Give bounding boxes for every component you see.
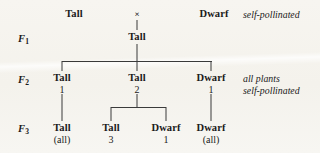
generation-label-f2: F2 <box>18 74 29 85</box>
f3-node-1-count: (all) <box>53 134 71 146</box>
bracket-f3-drop-right <box>166 107 167 121</box>
f2-note-line-1: all plants <box>243 73 280 84</box>
generation-label-f1-sub: 1 <box>25 37 29 46</box>
bracket-f2-drop-left <box>62 61 63 71</box>
f1-tall-label: Tall <box>128 31 146 43</box>
f2-node-3: Dwarf 1 <box>196 72 225 96</box>
f3-node-4-label: Dwarf <box>196 122 225 134</box>
connector-cross-to-f1 <box>137 20 138 30</box>
f1-node-tall: Tall <box>128 31 146 43</box>
f2-node-1: Tall 1 <box>53 72 71 96</box>
f3-node-1: Tall (all) <box>53 122 71 146</box>
f3-node-3-count: 1 <box>151 134 180 146</box>
parent-node-tall: Tall <box>65 8 83 20</box>
generation-label-f3: F3 <box>18 123 29 134</box>
f3-node-3-label: Dwarf <box>151 122 180 134</box>
bracket-f2-drop-center <box>137 61 138 71</box>
diagram-canvas: Tall × Dwarf self-pollinated F1 Tall F2 … <box>0 0 320 153</box>
f3-node-1-label: Tall <box>53 122 71 134</box>
connector-f1-to-f2-bar <box>137 44 138 61</box>
f3-node-2: Tall 3 <box>102 122 120 146</box>
generation-label-f2-sub: 2 <box>25 78 29 87</box>
generation-label-f1: F1 <box>18 33 29 44</box>
f2-node-2: Tall 2 <box>128 72 146 96</box>
bracket-f2-drop-right <box>211 61 212 71</box>
f2-node-2-label: Tall <box>128 72 146 84</box>
f3-node-2-count: 3 <box>102 134 120 146</box>
cross-symbol: × <box>134 9 139 19</box>
bracket-f3-horizontal <box>111 107 166 108</box>
f3-node-4-count: (all) <box>196 134 225 146</box>
connector-f2-left-to-f3 <box>62 94 63 121</box>
parental-note: self-pollinated <box>243 9 300 21</box>
parent-tall-label: Tall <box>65 8 83 20</box>
generation-label-f2-letter: F <box>18 74 25 85</box>
generation-label-f3-letter: F <box>18 123 25 134</box>
connector-f2-right-to-f3 <box>211 94 212 121</box>
f3-node-2-label: Tall <box>102 122 120 134</box>
connector-f2-center-stem <box>137 94 138 107</box>
parent-node-dwarf: Dwarf <box>199 8 228 20</box>
bracket-f3-drop-left <box>111 107 112 121</box>
generation-label-f3-sub: 3 <box>25 127 29 136</box>
generation-label-f1-letter: F <box>18 33 25 44</box>
f2-note: all plants self-pollinated <box>243 73 300 97</box>
f2-node-1-label: Tall <box>53 72 71 84</box>
f3-node-4: Dwarf (all) <box>196 122 225 146</box>
f3-node-3: Dwarf 1 <box>151 122 180 146</box>
f2-note-line-2: self-pollinated <box>243 85 300 96</box>
f2-node-3-label: Dwarf <box>196 72 225 84</box>
parent-dwarf-label: Dwarf <box>199 8 228 20</box>
